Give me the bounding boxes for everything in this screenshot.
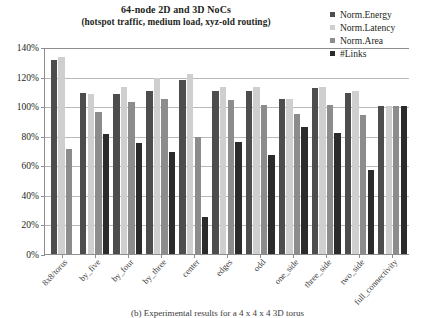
bar[interactable]: [161, 99, 167, 254]
legend-swatch-icon: [330, 25, 335, 30]
bar[interactable]: [279, 99, 285, 254]
bar-group: edges: [210, 48, 243, 254]
bar[interactable]: [95, 112, 101, 254]
bar-group: by_five: [78, 48, 111, 254]
x-axis-label: edges: [214, 257, 235, 278]
bar[interactable]: [146, 91, 152, 254]
bar[interactable]: [327, 105, 333, 254]
bar[interactable]: [113, 94, 119, 254]
bar[interactable]: [246, 91, 252, 254]
bar[interactable]: [88, 94, 94, 254]
legend-item-norm-latency[interactable]: Norm.Latency: [330, 21, 434, 34]
chart-title-block: 64-node 2D and 3D NoCs (hotspot traffic,…: [42, 4, 310, 28]
x-axis-label: three_side: [302, 257, 333, 290]
bar[interactable]: [378, 106, 384, 254]
bar[interactable]: [220, 87, 226, 254]
bar[interactable]: [301, 127, 307, 254]
chart-subtitle: (hotspot traffic, medium load, xyz-old r…: [42, 16, 310, 28]
bar-groups: 8x8/torusby_fiveby_fourby_threecenteredg…: [45, 48, 409, 254]
bar[interactable]: [128, 102, 134, 254]
bar[interactable]: [261, 105, 267, 254]
legend-swatch-icon: [330, 38, 335, 43]
bar[interactable]: [195, 137, 201, 254]
y-axis-label: 80%: [22, 132, 39, 142]
bar[interactable]: [103, 134, 109, 254]
bar[interactable]: [179, 80, 185, 254]
bar[interactable]: [136, 143, 142, 254]
bar[interactable]: [268, 155, 274, 254]
bar[interactable]: [80, 93, 86, 254]
bar[interactable]: [121, 87, 127, 254]
bar[interactable]: [294, 114, 300, 254]
bar[interactable]: [393, 106, 399, 254]
bar[interactable]: [253, 87, 259, 254]
bar[interactable]: [312, 88, 318, 254]
bar[interactable]: [228, 100, 234, 254]
legend-item-norm-area[interactable]: Norm.Area: [330, 34, 434, 47]
x-axis-label: 8x8/torus: [39, 257, 68, 288]
bar[interactable]: [360, 115, 366, 254]
bar[interactable]: [345, 93, 351, 254]
bar[interactable]: [58, 57, 64, 254]
y-axis-tick: [41, 255, 45, 256]
bar-group: by_three: [144, 48, 177, 254]
bar-group: three_side: [310, 48, 343, 254]
bar[interactable]: [187, 74, 193, 254]
bar[interactable]: [51, 60, 57, 254]
bar-group: full_connectivity: [376, 48, 409, 254]
page-title: 64-node 2D and 3D NoCs: [42, 4, 310, 16]
bar[interactable]: [169, 152, 175, 254]
bar[interactable]: [212, 91, 218, 254]
bar-group: one_side: [277, 48, 310, 254]
plot-area: 0%20%40%60%80%100%120%140% 8x8/torusby_f…: [44, 48, 409, 255]
y-axis-label: 140%: [17, 43, 39, 53]
y-axis-label: 120%: [17, 73, 39, 83]
y-axis-label: 20%: [22, 220, 39, 230]
legend-item-norm-energy[interactable]: Norm.Energy: [330, 8, 434, 21]
x-axis-label: by_four: [109, 257, 135, 284]
bar-group: center: [177, 48, 210, 254]
legend-swatch-icon: [330, 12, 335, 17]
legend-label: Norm.Latency: [340, 23, 395, 33]
chart-figure: 64-node 2D and 3D NoCs (hotspot traffic,…: [0, 0, 435, 318]
figure-caption: (b) Experimental results for a 4 x 4 x 4…: [0, 308, 435, 318]
bar[interactable]: [401, 106, 407, 254]
y-axis-label: 60%: [22, 161, 39, 171]
bar[interactable]: [319, 87, 325, 254]
x-axis-label: one_side: [272, 257, 300, 286]
bar[interactable]: [386, 106, 392, 254]
x-axis-label: two_side: [338, 257, 366, 287]
bar[interactable]: [286, 99, 292, 254]
x-axis-label: odd: [251, 257, 267, 273]
x-axis-label: by_five: [77, 257, 102, 283]
bar[interactable]: [235, 142, 241, 254]
legend-label: Norm.Area: [340, 36, 383, 46]
bar[interactable]: [154, 78, 160, 254]
y-axis-label: 100%: [17, 102, 39, 112]
y-axis-label: 0%: [26, 250, 39, 260]
x-axis-label: by_three: [140, 257, 168, 286]
bar[interactable]: [66, 149, 72, 254]
bar-group: odd: [244, 48, 277, 254]
bar[interactable]: [368, 170, 374, 254]
bar-group: two_side: [343, 48, 376, 254]
legend-label: Norm.Energy: [340, 10, 392, 20]
bar[interactable]: [352, 91, 358, 254]
y-axis-label: 40%: [22, 191, 39, 201]
bar[interactable]: [202, 217, 208, 254]
bar-group: 8x8/torus: [45, 48, 78, 254]
bar-group: by_four: [111, 48, 144, 254]
bar[interactable]: [334, 133, 340, 254]
x-axis-label: center: [180, 257, 202, 279]
